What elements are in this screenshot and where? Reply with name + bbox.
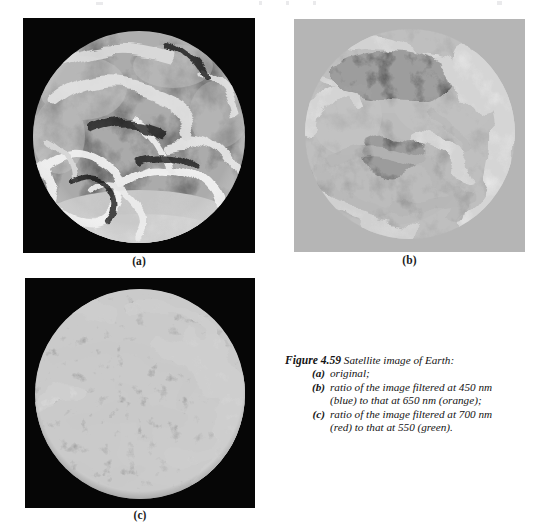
caption-marker-c: (c) [301, 408, 330, 421]
caption-item-b: (b) ratio of the image filtered at 450 n… [285, 381, 535, 394]
caption-text-b-cont: (blue) to that at 650 nm (orange); [330, 394, 535, 407]
earth-ratio-450-650-image [294, 19, 525, 252]
caption-text-b: ratio of the image filtered at 450 nm [330, 381, 535, 394]
caption-item-c: (c) ratio of the image filtered at 700 n… [285, 408, 535, 421]
earth-original-image [23, 18, 255, 253]
panel-label-c: (c) [25, 509, 255, 521]
figure-number: Figure 4.59 [285, 354, 341, 367]
caption-lead-line: Figure 4.59 Satellite image of Earth: [285, 354, 535, 367]
scan-artifact [259, 1, 262, 5]
figure-panel-c [25, 278, 255, 508]
figure-panel-a [23, 18, 255, 253]
scan-artifact [96, 2, 103, 5]
earth-ratio-700-550-image [25, 278, 255, 508]
scan-artifact [497, 1, 502, 5]
caption-item-a: (a) original; [285, 367, 535, 380]
caption-text-c: ratio of the image filtered at 700 nm [330, 408, 535, 421]
caption-lead-text: Satellite image of Earth: [344, 354, 454, 366]
figure-panel-b [294, 19, 525, 252]
caption-marker-b: (b) [301, 381, 330, 394]
scan-artifact [286, 1, 289, 5]
scan-artifact [313, 1, 316, 5]
panel-label-b: (b) [294, 254, 525, 266]
figure-page: (a) [0, 0, 545, 523]
panel-label-a: (a) [23, 255, 255, 267]
figure-caption: Figure 4.59 Satellite image of Earth: (a… [285, 354, 535, 434]
caption-marker-a: (a) [301, 367, 330, 380]
caption-item-list: (a) original; (b) ratio of the image fil… [285, 367, 535, 434]
caption-text-c-cont: (red) to that at 550 (green). [330, 421, 535, 434]
caption-text-a: original; [330, 367, 535, 380]
